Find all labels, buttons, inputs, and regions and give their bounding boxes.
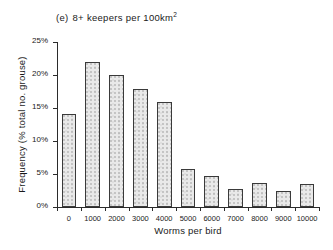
x-tick-label: 1000 — [84, 214, 101, 223]
y-tick: 5% — [53, 174, 57, 175]
bar — [276, 191, 291, 208]
y-tick-label: 20% — [32, 69, 48, 78]
y-tick-label: 15% — [32, 102, 48, 111]
panel-title-text: 8+ keepers per 100km — [73, 12, 174, 23]
x-tick — [248, 207, 249, 211]
x-tick-label: 7000 — [227, 214, 244, 223]
x-tick-label: 9000 — [275, 214, 292, 223]
x-tick — [271, 207, 272, 211]
x-tick-label: 5000 — [180, 214, 197, 223]
x-tick — [295, 207, 296, 211]
x-tick-label: 6000 — [203, 214, 220, 223]
x-tick — [57, 207, 58, 211]
x-tick — [81, 207, 82, 211]
x-tick — [152, 207, 153, 211]
x-tick-label: 8000 — [251, 214, 268, 223]
bar — [300, 184, 315, 207]
bar — [109, 75, 124, 207]
x-tick-label: 2000 — [108, 214, 125, 223]
y-tick: 20% — [53, 75, 57, 76]
x-tick — [319, 207, 320, 211]
plot-area: 0%5%10%15%20%25% 01000200030004000500060… — [57, 42, 319, 207]
x-axis-line — [57, 207, 319, 208]
x-tick-label: 0 — [67, 214, 71, 223]
y-tick-label: 5% — [36, 168, 48, 177]
bar — [228, 189, 243, 207]
panel-tag: (e) — [56, 12, 69, 23]
panel-title-superscript: 2 — [173, 11, 177, 18]
x-tick — [224, 207, 225, 211]
bar — [85, 62, 100, 207]
x-axis-label: Worms per bird — [57, 225, 319, 236]
bar — [252, 183, 267, 207]
x-tick — [105, 207, 106, 211]
x-tick — [200, 207, 201, 211]
y-tick-label: 25% — [32, 36, 48, 45]
bar — [204, 176, 219, 207]
chart-title: (e)8+ keepers per 100km2 — [56, 12, 177, 23]
x-tick-label: 3000 — [132, 214, 149, 223]
y-axis-line — [57, 42, 58, 207]
x-tick — [176, 207, 177, 211]
x-tick-label: 10000 — [297, 214, 318, 223]
y-tick: 15% — [53, 108, 57, 109]
bar — [181, 169, 196, 207]
x-tick-label: 4000 — [156, 214, 173, 223]
y-tick-label: 10% — [32, 135, 48, 144]
bar — [157, 102, 172, 207]
y-tick: 10% — [53, 141, 57, 142]
y-tick: 25% — [53, 42, 57, 43]
y-tick-label: 0% — [36, 201, 48, 210]
chart-figure: (e)8+ keepers per 100km2 Frequency (% to… — [0, 0, 333, 250]
x-tick — [129, 207, 130, 211]
y-axis-label: Frequency (% total no. grouse) — [16, 37, 32, 212]
bar — [133, 89, 148, 207]
bar — [62, 114, 77, 207]
